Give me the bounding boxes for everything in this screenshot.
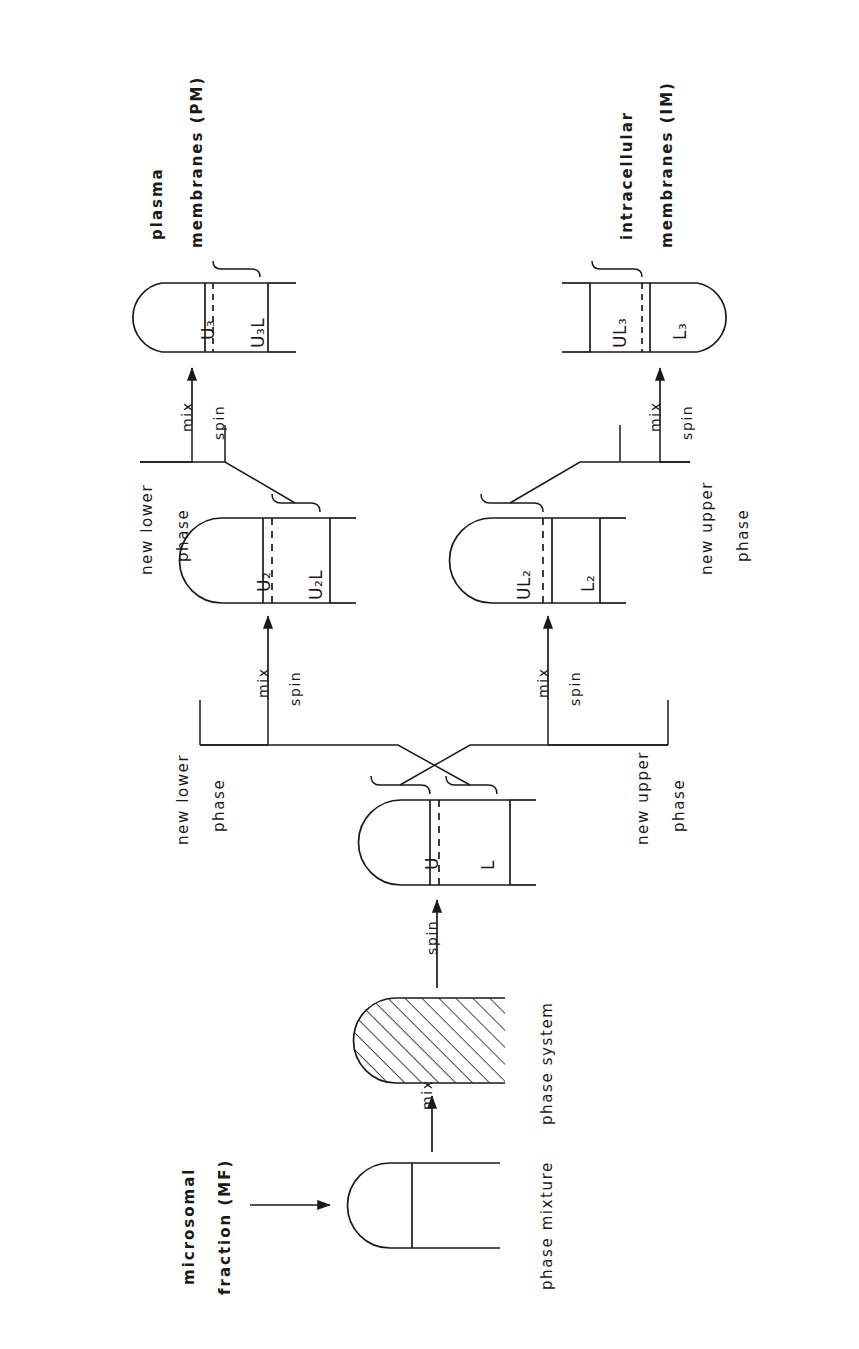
brace-U3 [213,261,260,277]
brace-L3 [592,261,642,277]
tube-phase-mixture-shape [348,1163,501,1248]
tube-label-U2: U₂ [256,572,273,592]
source-label-line2: fraction (MF) [218,1159,233,1295]
op-mix-3L: mix [180,401,194,432]
label-new-upper-phase-1a: new upper [636,751,651,845]
op-spin-1: spin [425,920,439,955]
label-new-lower-phase-2a: new lower [176,754,191,845]
tube-UL3-shape [562,283,726,352]
tube-label-U: U [424,857,441,870]
branch-U-to-left [200,745,470,785]
op-spin-3L: spin [212,405,226,440]
caption-phase-mixture: phase mixture [540,1161,555,1290]
output-pm-line2: membranes (PM) [190,76,205,248]
output-im-line2: membranes (IM) [660,81,675,248]
tube-label-UL2: UL₂ [516,570,533,600]
brace-L2 [481,494,543,512]
label-new-upper-phase-1b: phase [672,779,687,832]
tube-label-L2: L₂ [580,575,597,592]
tube-label-UL3: UL₃ [612,318,629,348]
brace-U [446,776,497,794]
tube-label-U2L: U₂L [308,570,325,600]
label-new-upper-phase-2b: phase [736,509,751,562]
brace-U2 [272,494,320,512]
op-spin-2R: spin [568,671,582,706]
source-label-line1: microsomal [182,1168,197,1286]
tube-label-U3L: U₃L [250,318,267,348]
op-spin-3R: spin [680,405,694,440]
tube-label-L: L [480,860,497,870]
op-mix-1: mix [420,1079,434,1110]
caption-phase-system: phase system [540,1002,555,1125]
label-new-lower-phase-1a: new lower [140,484,155,575]
tube-UL2-shape [450,518,627,603]
label-new-lower-phase-1b: phase [176,509,191,562]
tube-UL-shape [359,800,537,885]
tube-phase-system-shape [354,998,506,1083]
branch-L2-right [510,462,690,503]
tube-label-U3: U₃ [200,320,217,340]
output-pm-line1: plasma [150,167,165,240]
branch-L-to-right [400,745,668,785]
label-new-lower-phase-2b: phase [212,779,227,832]
diagram-lines [0,0,859,1349]
op-mix-2R: mix [536,667,550,698]
diagram-canvas: microsomal fraction (MF) phase mixture p… [0,0,859,1349]
label-new-upper-phase-2a: new upper [700,481,715,575]
op-mix-2L: mix [256,667,270,698]
tube-label-L3: L₃ [672,323,689,340]
output-im-line1: intracellular [620,111,635,240]
tube-U3-shape [133,283,296,352]
op-spin-2L: spin [288,671,302,706]
op-mix-3R: mix [648,401,662,432]
